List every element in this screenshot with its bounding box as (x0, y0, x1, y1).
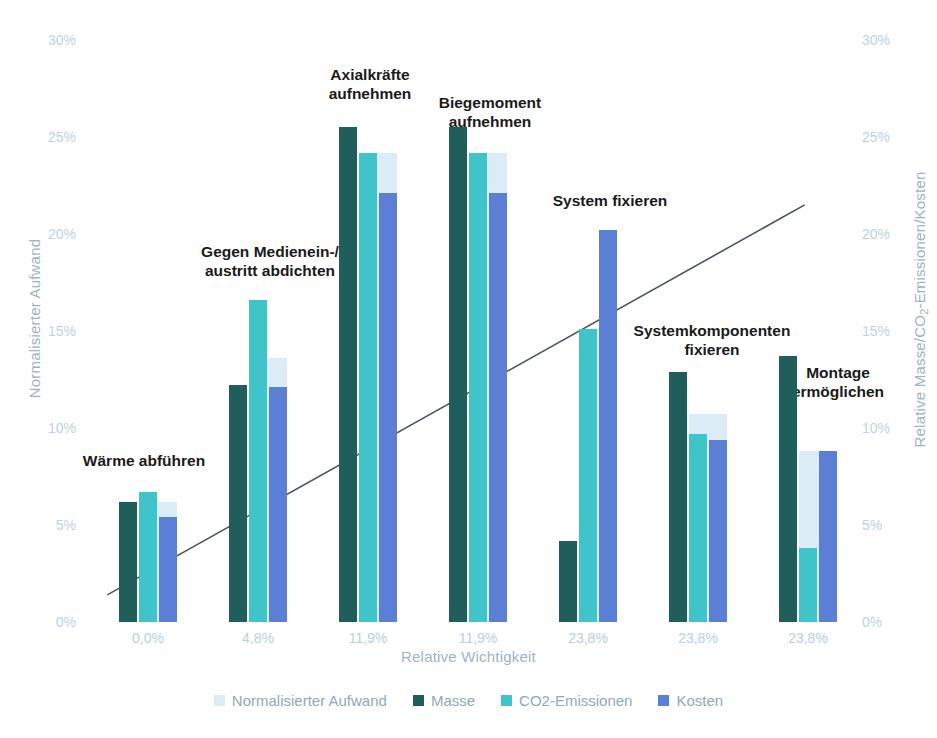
y-axis-left-tick: 25% (32, 130, 76, 144)
x-axis-tick-label: 0,0% (103, 630, 193, 646)
bar-kosten (599, 230, 617, 622)
legend-item-label: Kosten (676, 692, 723, 709)
y-axis-right-tick: 20% (862, 227, 906, 241)
y-axis-left-tick: 15% (32, 324, 76, 338)
legend-item-label: Masse (431, 692, 475, 709)
bar-masse (669, 372, 687, 622)
legend-item-label: Normalisierter Aufwand (232, 692, 387, 709)
y-axis-right-tick: 30% (862, 33, 906, 47)
group-annotation: Systemkomponenten fixieren (597, 322, 827, 360)
x-axis-tick-label: 11,9% (323, 630, 413, 646)
legend-item[interactable]: Normalisierter Aufwand (214, 692, 387, 709)
bar-co2 (799, 548, 817, 622)
x-axis-tick-label: 4,8% (213, 630, 303, 646)
bar-co2 (249, 300, 267, 622)
bar-masse (449, 127, 467, 622)
x-axis-tick-label: 11,9% (433, 630, 523, 646)
bar-kosten (489, 193, 507, 622)
y-axis-left-tick: 20% (32, 227, 76, 241)
y-axis-left-tick: 5% (32, 518, 76, 532)
legend-swatch-icon (658, 695, 669, 706)
bar-co2 (359, 153, 377, 622)
y-axis-right-tick: 0% (862, 615, 906, 629)
bar-co2 (469, 153, 487, 622)
bar-masse (559, 541, 577, 622)
y-axis-left-tick: 0% (32, 615, 76, 629)
bar-masse (229, 385, 247, 622)
legend-swatch-icon (214, 695, 225, 706)
legend-item[interactable]: CO2-Emissionen (501, 692, 632, 709)
y-axis-right-title-subscript: 2 (918, 309, 930, 315)
bar-co2 (579, 329, 597, 622)
bar-chart: Normalisierter Aufwand Relative Masse/CO… (0, 0, 937, 738)
y-axis-right-tick: 10% (862, 421, 906, 435)
bar-co2 (689, 434, 707, 622)
bar-kosten (269, 387, 287, 622)
x-axis-tick-label: 23,8% (763, 630, 853, 646)
group-annotation: System fixieren (520, 192, 700, 211)
bar-co2 (139, 492, 157, 622)
y-axis-right-tick: 25% (862, 130, 906, 144)
bar-kosten (709, 440, 727, 622)
y-axis-right-tick: 15% (862, 324, 906, 338)
bar-group (203, 40, 313, 622)
x-axis-tick-label: 23,8% (543, 630, 633, 646)
bar-kosten (159, 517, 177, 622)
legend-item-label: CO2-Emissionen (519, 692, 632, 709)
x-axis-tick-label: 23,8% (653, 630, 743, 646)
x-axis-title: Relative Wichtigkeit (0, 648, 937, 665)
group-annotation: Biegemoment aufnehmen (403, 94, 578, 132)
legend-item[interactable]: Kosten (658, 692, 723, 709)
y-axis-left-tick: 30% (32, 33, 76, 47)
chart-legend: Normalisierter AufwandMasseCO2-Emissione… (0, 692, 937, 709)
y-axis-right-title-suffix: -Emissionen/Kosten (911, 172, 928, 309)
bar-masse (779, 356, 797, 622)
bar-group (93, 40, 203, 622)
bar-kosten (379, 193, 397, 622)
legend-item[interactable]: Masse (413, 692, 475, 709)
group-annotation: Wärme abführen (49, 452, 239, 471)
legend-swatch-icon (413, 695, 424, 706)
y-axis-right-tick: 5% (862, 518, 906, 532)
bar-kosten (819, 451, 837, 622)
bar-masse (339, 127, 357, 622)
y-axis-left-tick: 10% (32, 421, 76, 435)
bar-masse (119, 502, 137, 622)
y-axis-right-title: Relative Masse/CO2-Emissionen/Kosten (911, 150, 930, 470)
legend-swatch-icon (501, 695, 512, 706)
